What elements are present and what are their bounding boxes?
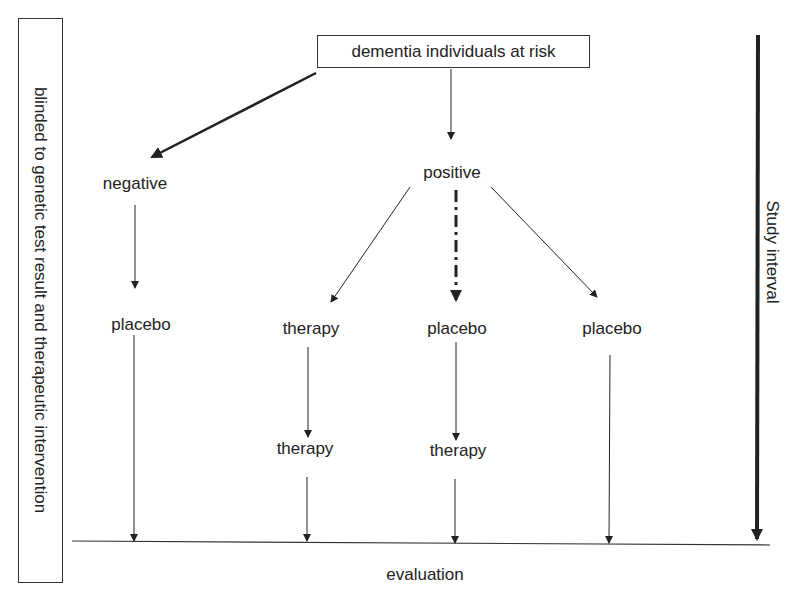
arrow-positive-therapy <box>331 187 410 302</box>
negative-label: negative <box>103 174 167 194</box>
population-label: dementia individuals at risk <box>351 42 555 62</box>
study-interval-arrow <box>757 35 758 539</box>
arrow-positive-placebo-right <box>491 187 597 297</box>
branch2-level2: therapy <box>277 439 334 459</box>
blinded-label: blinded to genetic test result and thera… <box>30 87 50 513</box>
branch1-level1: placebo <box>111 315 171 335</box>
branch3-level1: placebo <box>427 319 487 339</box>
arrow-col4-eval <box>609 355 610 543</box>
branch4-level1: placebo <box>582 319 642 339</box>
arrows-layer <box>0 0 794 598</box>
branch3-level2: therapy <box>430 441 487 461</box>
branch2-level1: therapy <box>283 319 340 339</box>
population-box: dementia individuals at risk <box>317 35 590 68</box>
study-interval-label: Study interval <box>762 201 782 304</box>
evaluation-label: evaluation <box>386 565 464 585</box>
arrow-to-negative <box>152 73 316 157</box>
positive-label: positive <box>423 163 481 183</box>
evaluation-baseline <box>72 541 770 545</box>
